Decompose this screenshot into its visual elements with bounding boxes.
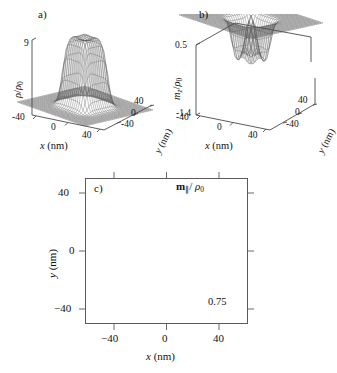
- panel-a-xaxis-label: x (nm): [40, 140, 68, 151]
- panel-c-ytick-40: 40: [58, 186, 69, 198]
- panel-b-ytick-0: 0: [295, 107, 300, 117]
- panel-c-quantity-label: m∥/ ρ0: [176, 180, 304, 194]
- panel-c-xtick-0: 0: [162, 332, 168, 344]
- panel-c-xtick-40: 40: [213, 332, 224, 344]
- panel-b: b) 0.5 -1.4 mz/ρ0: [163, 0, 334, 160]
- panel-b-zaxis-label: mz/ρ0: [171, 78, 184, 100]
- panel-b-ytick-neg40: -40: [286, 119, 299, 129]
- panel-b-ztick-top: 0.5: [175, 40, 187, 50]
- panel-c: c) m∥/ ρ0: [28, 172, 310, 373]
- panel-c-label: c): [94, 182, 103, 194]
- panel-c-yaxis-symbol: y: [46, 273, 58, 278]
- panel-a-label: a): [38, 8, 47, 20]
- panel-c-yaxis-label: y (nm): [46, 249, 58, 278]
- panel-c-xaxis-unit: (nm): [154, 350, 175, 362]
- panel-a-xtick-neg40: -40: [12, 112, 25, 122]
- panel-b-xtick-40: 40: [248, 130, 258, 140]
- panel-c-ytick-neg40: −40: [54, 302, 71, 314]
- panel-c-xaxis-symbol: x: [146, 350, 151, 362]
- panel-c-xtick-neg40: −40: [101, 332, 118, 344]
- panel-b-xaxis-label: x (nm): [205, 140, 233, 151]
- panel-a-xtick-40: 40: [82, 130, 92, 140]
- panel-a-ytick-neg40: -40: [121, 119, 134, 129]
- panel-b-xtick-0: 0: [217, 122, 222, 132]
- panel-a-ytick-0: 0: [131, 108, 136, 118]
- panel-b-label: b): [199, 8, 208, 20]
- panel-a-xaxis-symbol: x: [40, 140, 45, 151]
- panel-c-ytick-0: 0: [69, 244, 75, 256]
- panel-c-xaxis-label: x (nm): [146, 350, 175, 362]
- panel-a-zaxis-label: ρ/ρ0: [12, 81, 25, 98]
- panel-b-ytick-40: 40: [298, 95, 308, 105]
- panel-a-ytick-40: 40: [134, 96, 144, 106]
- panel-b-xaxis-symbol: x: [205, 140, 210, 151]
- panel-b-xtick-neg40: -40: [176, 112, 189, 122]
- panel-a-xaxis-unit: (nm): [47, 140, 67, 151]
- panel-b-xaxis-unit: (nm): [212, 140, 232, 151]
- panel-c-yaxis-unit: (nm): [46, 249, 58, 270]
- panel-c-scale-label: 0.75: [208, 296, 226, 307]
- panel-a-ztick-top: 9: [24, 38, 29, 48]
- panel-a-xtick-0: 0: [51, 122, 56, 132]
- panel-a: a) 9 ρ/ρ0: [0, 0, 167, 160]
